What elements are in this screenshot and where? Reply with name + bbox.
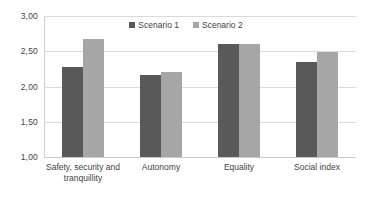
y-axis-tick-label: 1,50 bbox=[6, 117, 38, 127]
bar-group bbox=[200, 16, 278, 157]
y-axis-tick-label: 2,50 bbox=[6, 46, 38, 56]
bar-scenario-1 bbox=[62, 67, 83, 157]
bar-group bbox=[122, 16, 200, 157]
bar-group bbox=[44, 16, 122, 157]
y-axis-tick-label: 1,00 bbox=[6, 152, 38, 162]
bar-scenario-2 bbox=[239, 44, 260, 158]
x-axis-category-label: Autonomy bbox=[122, 162, 200, 173]
y-axis-tick-label: 3,00 bbox=[6, 11, 38, 21]
bar-scenario-1 bbox=[140, 75, 161, 157]
plot-area bbox=[44, 16, 356, 157]
x-axis-category-label: Social index bbox=[278, 162, 356, 173]
x-axis-category-label: Equality bbox=[200, 162, 278, 173]
bar-scenario-1 bbox=[218, 44, 239, 158]
bar-scenario-2 bbox=[161, 72, 182, 157]
gridline bbox=[44, 157, 356, 158]
y-axis-tick-label: 2,00 bbox=[6, 82, 38, 92]
x-axis-category-label: Safety, security and tranquillity bbox=[44, 162, 122, 184]
bar-scenario-2 bbox=[317, 52, 338, 157]
bar-chart: 3,002,502,001,501,00 Safety, security an… bbox=[0, 0, 372, 202]
bar-scenario-2 bbox=[83, 39, 104, 157]
bar-group bbox=[278, 16, 356, 157]
bar-scenario-1 bbox=[296, 62, 317, 157]
